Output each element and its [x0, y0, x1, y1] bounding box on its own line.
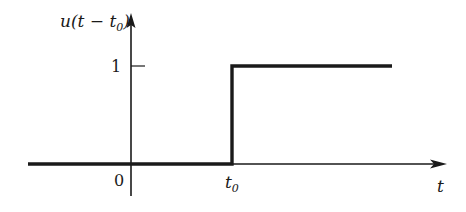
x-axis-label: t — [437, 176, 444, 196]
step-function-curve — [28, 66, 392, 164]
unit-step-diagram: u(t − t0) 1 0 t0 t — [0, 0, 466, 212]
y-axis-label: u(t − t0) — [60, 11, 130, 34]
y-tick-label-one: 1 — [111, 57, 121, 76]
t0-tick-label: t0 — [225, 172, 239, 195]
origin-label: 0 — [114, 171, 124, 190]
